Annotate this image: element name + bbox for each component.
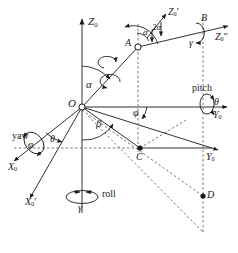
point-marker-c <box>137 145 142 150</box>
axis-label-y0-lower: Y0 <box>206 152 215 163</box>
axis-label-z0: Z0 <box>88 16 98 28</box>
rotation-label-yaw: yaw <box>12 131 29 141</box>
angle-label-beta: β <box>96 118 101 129</box>
axis-label-x0-prime: X0′ <box>25 197 36 208</box>
point-label-d: D <box>207 190 214 200</box>
coordinate-system-diagram: Z0 Z0′ Z0″ Y0 Y0 X0 X0′ O A B C D α α 2α… <box>0 0 238 253</box>
angle-label-alpha-at-a: α <box>143 28 148 37</box>
point-label-o: O <box>68 98 76 109</box>
rotation-label-pitch: pitch <box>192 83 212 93</box>
point-label-c: C <box>136 152 143 162</box>
rotation-label-roll: roll <box>102 189 116 199</box>
axis-label-z0-prime: Z0′ <box>168 7 179 18</box>
axis-label-x0: X0 <box>8 162 17 173</box>
axis-label-z0-double-prime: Z0″ <box>215 32 228 43</box>
angle-label-theta-origin: θ <box>50 134 55 144</box>
diagram-canvas <box>0 0 238 253</box>
rotation-curl-symbols <box>20 23 214 204</box>
point-marker-o <box>79 104 85 110</box>
construction-lines <box>14 18 203 232</box>
rotation-symbol-roll-gamma: γ <box>78 203 82 213</box>
point-label-b: B <box>201 13 207 23</box>
axis-line-x0-prime <box>30 107 82 198</box>
angle-label-gamma-at-b: γ <box>189 38 193 48</box>
angle-label-phi-upper: φ <box>133 108 139 118</box>
axis-label-y0-upper: Y0 <box>213 110 222 121</box>
rotation-symbol-pitch-theta: θ <box>214 97 219 107</box>
rotation-symbol-yaw-phi: φ <box>28 140 34 150</box>
axis-line-y0-lower <box>82 107 218 150</box>
angle-label-alpha-origin: α <box>86 79 92 90</box>
point-label-a: A <box>125 38 131 48</box>
point-marker-a <box>135 44 141 50</box>
point-marker-d <box>200 193 205 198</box>
segment-oa <box>82 47 138 107</box>
angle-label-two-alpha: 2α <box>152 23 161 32</box>
